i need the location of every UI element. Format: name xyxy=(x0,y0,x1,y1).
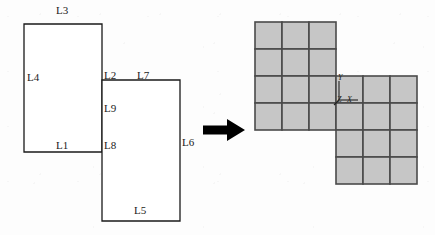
voxel-cell xyxy=(363,103,390,130)
edge-label-L3: L3 xyxy=(56,5,68,16)
voxel-cell xyxy=(363,76,390,103)
voxel-cell xyxy=(282,103,309,130)
voxel-cell xyxy=(336,103,363,130)
voxel-cell xyxy=(336,130,363,157)
voxel-cell xyxy=(390,76,417,103)
voxel-cell xyxy=(255,76,282,103)
voxel-cell xyxy=(255,22,282,49)
voxel-cell xyxy=(390,103,417,130)
voxel-cell xyxy=(255,49,282,76)
voxel-grid-result: Y Z X xyxy=(248,12,428,230)
edge-label-L1: L1 xyxy=(56,140,68,151)
arrow-shape xyxy=(203,119,245,141)
edge-label-L8: L8 xyxy=(104,140,116,151)
axis-label-y: Y xyxy=(338,74,342,82)
voxel-cell xyxy=(282,22,309,49)
sketch-svg xyxy=(0,0,215,235)
edge-label-L2: L2 xyxy=(104,70,116,81)
axis-label-x: X xyxy=(347,96,352,104)
edge-label-L4: L4 xyxy=(27,72,39,83)
axis-label-z: Z xyxy=(337,96,341,104)
voxel-cell xyxy=(390,130,417,157)
edge-label-L5: L5 xyxy=(134,205,146,216)
voxel-cell xyxy=(309,103,336,130)
voxel-grid-svg xyxy=(248,12,428,230)
voxel-cell xyxy=(282,76,309,103)
voxel-cell xyxy=(363,157,390,184)
upper-left-block xyxy=(255,22,336,130)
upper-rectangle-outline xyxy=(24,24,102,152)
lower-right-block xyxy=(336,76,417,184)
right-arrow-svg xyxy=(203,118,247,142)
figure-canvas: L3 L4 L1 L2 L7 L9 L8 L6 L5 xyxy=(0,0,435,235)
edge-label-L7: L7 xyxy=(137,70,149,81)
voxel-cell xyxy=(390,157,417,184)
voxel-cell xyxy=(363,130,390,157)
voxel-cell xyxy=(309,76,336,103)
voxel-cell xyxy=(309,49,336,76)
voxel-cell xyxy=(255,103,282,130)
right-arrow-icon xyxy=(203,118,247,142)
labelled-profile-sketch: L3 L4 L1 L2 L7 L9 L8 L6 L5 xyxy=(0,0,215,235)
voxel-cell xyxy=(309,22,336,49)
voxel-cell xyxy=(282,49,309,76)
edge-label-L9: L9 xyxy=(104,103,116,114)
edge-label-L6: L6 xyxy=(182,137,194,148)
voxel-cell xyxy=(336,157,363,184)
